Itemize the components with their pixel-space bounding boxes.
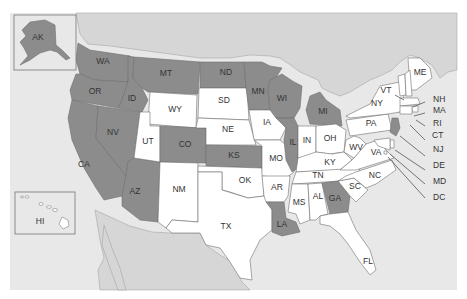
label-IN: IN [303,135,312,145]
label-RI: RI [433,118,442,128]
label-NM: NM [172,184,185,194]
state-DE[interactable] [390,140,394,148]
label-ID: ID [128,93,137,103]
label-MI: MI [318,106,327,116]
label-TX: TX [221,221,232,231]
label-MO: MO [269,153,283,163]
label-NY: NY [371,98,383,108]
label-KS: KS [228,150,240,160]
us-states-map: AK HI WAORCAIDNVAZMTWYUTCONMNDSDNEKSOKTX… [0,0,467,299]
state-NM[interactable] [158,162,198,228]
label-IA: IA [263,117,271,127]
state-DC[interactable] [384,151,387,154]
label-WY: WY [168,104,182,114]
label-WA: WA [96,56,110,66]
label-UT: UT [142,136,153,146]
label-ND: ND [220,67,232,77]
label-MA: MA [433,105,446,115]
label-MN: MN [251,86,264,96]
label-AL: AL [313,191,324,201]
label-VT: VT [381,85,392,95]
label-AZ: AZ [130,186,141,196]
label-AK: AK [32,32,44,42]
label-OR: OR [89,86,102,96]
label-SC: SC [349,181,361,191]
label-SD: SD [218,95,230,105]
label-FL: FL [363,256,373,266]
label-DE: DE [433,160,445,170]
label-OK: OK [239,175,252,185]
label-MS: MS [293,197,306,207]
label-NH: NH [433,94,445,104]
label-PA: PA [366,118,377,128]
label-NC: NC [369,170,381,180]
label-LA: LA [277,219,288,229]
label-HI: HI [36,216,45,226]
label-ME: ME [414,67,427,77]
label-AR: AR [271,182,283,192]
label-DC: DC [433,192,445,202]
label-NV: NV [107,127,119,137]
label-WI: WI [277,93,287,103]
label-VA: VA [371,147,382,157]
label-NJ: NJ [433,144,443,154]
label-CA: CA [78,159,90,169]
label-CT: CT [432,130,443,140]
label-WV: WV [349,142,363,152]
label-TN: TN [312,170,323,180]
label-GA: GA [329,193,342,203]
label-MT: MT [160,68,172,78]
label-OH: OH [324,133,337,143]
label-MD: MD [433,176,446,186]
inset-hawaii: HI [15,192,75,234]
state-RI[interactable] [412,106,418,112]
state-CT[interactable] [400,106,412,114]
label-NE: NE [222,124,234,134]
label-CO: CO [179,139,192,149]
inset-alaska: AK [14,15,76,70]
label-KY: KY [324,157,336,167]
label-IL: IL [289,137,296,147]
